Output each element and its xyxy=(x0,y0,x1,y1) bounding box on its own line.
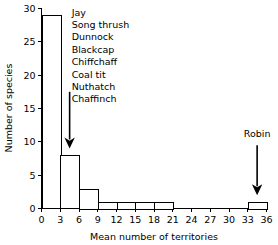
x-tick-label: 18 xyxy=(148,214,160,225)
histogram-bar xyxy=(99,203,118,210)
histogram-bar xyxy=(155,203,174,210)
histogram-bar xyxy=(61,156,80,209)
species-list-annotation: JaySong thrushDunnockBlackcapChiffchaffC… xyxy=(64,7,129,149)
annotation-label: Blackcap xyxy=(72,44,115,55)
chart-canvas: 051015202530 0369121518212427303336 JayS… xyxy=(0,0,278,245)
annotation-label: Nuthatch xyxy=(72,81,116,92)
y-tick-label: 30 xyxy=(23,3,35,14)
y-tick-label: 5 xyxy=(29,170,35,181)
annotation-label: Jay xyxy=(71,7,87,18)
x-tick-label: 12 xyxy=(110,214,122,225)
robin-annotation: Robin xyxy=(244,128,271,195)
y-tick-label: 20 xyxy=(23,70,35,81)
x-tick-label: 33 xyxy=(242,214,254,225)
x-tick-label: 15 xyxy=(129,214,141,225)
x-axis-title: Mean number of territories xyxy=(90,231,218,242)
y-axis-title: Number of species xyxy=(3,64,14,153)
y-axis-ticks: 051015202530 xyxy=(23,3,41,214)
x-tick-label: 27 xyxy=(204,214,216,225)
histogram-bar xyxy=(43,16,62,209)
x-tick-label: 6 xyxy=(76,214,82,225)
histogram-bar xyxy=(249,203,268,210)
x-tick-label: 9 xyxy=(95,214,101,225)
annotation-label: Chaffinch xyxy=(72,93,117,104)
histogram-bar xyxy=(118,203,137,210)
y-tick-label: 10 xyxy=(23,136,35,147)
x-tick-label: 0 xyxy=(38,214,44,225)
y-tick-label: 15 xyxy=(23,103,35,114)
x-tick-label: 30 xyxy=(223,214,235,225)
chart-annotations: JaySong thrushDunnockBlackcapChiffchaffC… xyxy=(64,7,270,196)
x-tick-label: 36 xyxy=(260,214,272,225)
x-tick-label: 24 xyxy=(185,214,197,225)
annotation-label: Coal tit xyxy=(72,69,106,80)
annotation-label: Chiffchaff xyxy=(72,56,118,67)
x-tick-label: 21 xyxy=(167,214,179,225)
annotation-label: Dunnock xyxy=(72,31,114,42)
x-axis-ticks: 0369121518212427303336 xyxy=(38,209,272,225)
annotation-label: Song thrush xyxy=(72,19,130,30)
histogram-bar xyxy=(80,190,99,210)
histogram-chart: 051015202530 0369121518212427303336 JayS… xyxy=(0,0,278,245)
y-tick-label: 0 xyxy=(29,203,35,214)
x-tick-label: 3 xyxy=(57,214,63,225)
y-tick-label: 25 xyxy=(23,36,35,47)
histogram-bar xyxy=(136,203,155,210)
annotation-label: Robin xyxy=(244,128,271,139)
